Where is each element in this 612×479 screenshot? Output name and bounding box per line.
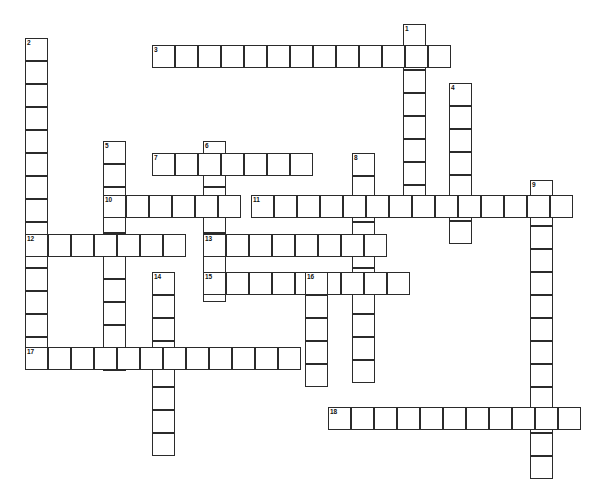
- crossword-cell[interactable]: [232, 347, 255, 370]
- crossword-cell[interactable]: [530, 249, 553, 272]
- crossword-cell[interactable]: [103, 256, 126, 279]
- crossword-cell[interactable]: [251, 195, 274, 218]
- crossword-cell[interactable]: [203, 234, 226, 257]
- crossword-cell[interactable]: [530, 272, 553, 295]
- crossword-cell[interactable]: [435, 195, 458, 218]
- crossword-cell[interactable]: [126, 195, 149, 218]
- crossword-cell[interactable]: [152, 153, 175, 176]
- crossword-cell[interactable]: [550, 195, 573, 218]
- crossword-cell[interactable]: [140, 347, 163, 370]
- crossword-cell[interactable]: [94, 347, 117, 370]
- crossword-cell[interactable]: [403, 162, 426, 185]
- crossword-cell[interactable]: [403, 116, 426, 139]
- crossword-cell[interactable]: [198, 153, 221, 176]
- crossword-cell[interactable]: [117, 234, 140, 257]
- crossword-cell[interactable]: [352, 360, 375, 383]
- crossword-cell[interactable]: [25, 176, 48, 199]
- crossword-cell[interactable]: [172, 195, 195, 218]
- crossword-cell[interactable]: [504, 195, 527, 218]
- crossword-cell[interactable]: [272, 234, 295, 257]
- crossword-cell[interactable]: [249, 272, 272, 295]
- crossword-cell[interactable]: [25, 84, 48, 107]
- crossword-cell[interactable]: [389, 195, 412, 218]
- crossword-cell[interactable]: [149, 195, 172, 218]
- crossword-cell[interactable]: [305, 295, 328, 318]
- crossword-cell[interactable]: [198, 45, 221, 68]
- crossword-cell[interactable]: [305, 364, 328, 387]
- crossword-cell[interactable]: [458, 195, 481, 218]
- crossword-cell[interactable]: [103, 302, 126, 325]
- crossword-cell[interactable]: [94, 234, 117, 257]
- crossword-cell[interactable]: [366, 195, 389, 218]
- crossword-cell[interactable]: [249, 234, 272, 257]
- crossword-cell[interactable]: [221, 153, 244, 176]
- crossword-cell[interactable]: [352, 337, 375, 360]
- crossword-cell[interactable]: [152, 318, 175, 341]
- crossword-cell[interactable]: [341, 234, 364, 257]
- crossword-cell[interactable]: [152, 410, 175, 433]
- crossword-cell[interactable]: [48, 234, 71, 257]
- crossword-cell[interactable]: [71, 234, 94, 257]
- crossword-cell[interactable]: [403, 139, 426, 162]
- crossword-cell[interactable]: [25, 130, 48, 153]
- crossword-cell[interactable]: [226, 272, 249, 295]
- crossword-cell[interactable]: [387, 272, 410, 295]
- crossword-cell[interactable]: [152, 387, 175, 410]
- crossword-cell[interactable]: [512, 407, 535, 430]
- crossword-cell[interactable]: [117, 347, 140, 370]
- crossword-cell[interactable]: [420, 407, 443, 430]
- crossword-cell[interactable]: [103, 325, 126, 348]
- crossword-cell[interactable]: [530, 341, 553, 364]
- crossword-cell[interactable]: [535, 407, 558, 430]
- crossword-cell[interactable]: [364, 272, 387, 295]
- crossword-cell[interactable]: [305, 341, 328, 364]
- crossword-cell[interactable]: [152, 433, 175, 456]
- crossword-cell[interactable]: [530, 456, 553, 479]
- crossword-cell[interactable]: [267, 153, 290, 176]
- crossword-cell[interactable]: [313, 45, 336, 68]
- crossword-cell[interactable]: [352, 153, 375, 176]
- crossword-cell[interactable]: [359, 45, 382, 68]
- crossword-cell[interactable]: [412, 195, 435, 218]
- crossword-cell[interactable]: [290, 45, 313, 68]
- crossword-cell[interactable]: [175, 45, 198, 68]
- crossword-cell[interactable]: [25, 314, 48, 337]
- crossword-cell[interactable]: [318, 234, 341, 257]
- crossword-cell[interactable]: [364, 234, 387, 257]
- crossword-cell[interactable]: [527, 195, 550, 218]
- crossword-cell[interactable]: [449, 152, 472, 175]
- crossword-cell[interactable]: [25, 347, 48, 370]
- crossword-cell[interactable]: [558, 407, 581, 430]
- crossword-cell[interactable]: [403, 24, 426, 47]
- crossword-cell[interactable]: [163, 234, 186, 257]
- crossword-cell[interactable]: [103, 279, 126, 302]
- crossword-cell[interactable]: [218, 195, 241, 218]
- crossword-cell[interactable]: [25, 234, 48, 257]
- crossword-cell[interactable]: [403, 93, 426, 116]
- crossword-cell[interactable]: [226, 234, 249, 257]
- crossword-cell[interactable]: [25, 153, 48, 176]
- crossword-cell[interactable]: [328, 407, 351, 430]
- crossword-cell[interactable]: [397, 407, 420, 430]
- crossword-cell[interactable]: [481, 195, 504, 218]
- crossword-cell[interactable]: [25, 61, 48, 84]
- crossword-cell[interactable]: [209, 347, 232, 370]
- crossword-cell[interactable]: [320, 195, 343, 218]
- crossword-cell[interactable]: [25, 199, 48, 222]
- crossword-cell[interactable]: [25, 107, 48, 130]
- crossword-cell[interactable]: [530, 318, 553, 341]
- crossword-cell[interactable]: [25, 291, 48, 314]
- crossword-cell[interactable]: [244, 45, 267, 68]
- crossword-cell[interactable]: [152, 272, 175, 295]
- crossword-cell[interactable]: [163, 347, 186, 370]
- crossword-cell[interactable]: [305, 318, 328, 341]
- crossword-cell[interactable]: [267, 45, 290, 68]
- crossword-cell[interactable]: [175, 153, 198, 176]
- crossword-cell[interactable]: [352, 314, 375, 337]
- crossword-cell[interactable]: [274, 195, 297, 218]
- crossword-cell[interactable]: [336, 45, 359, 68]
- crossword-cell[interactable]: [152, 295, 175, 318]
- crossword-cell[interactable]: [443, 407, 466, 430]
- crossword-cell[interactable]: [103, 141, 126, 164]
